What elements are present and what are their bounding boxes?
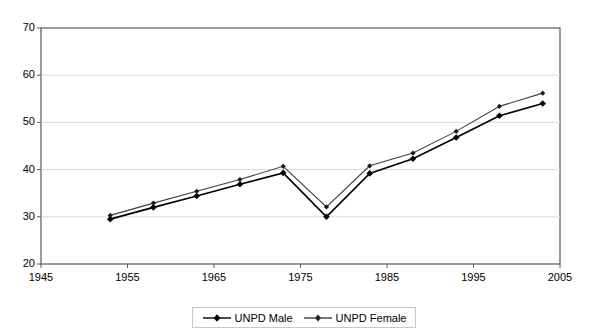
x-tick-label: 1975	[277, 271, 325, 283]
y-tick-label: 60	[6, 68, 35, 80]
plot-frame	[41, 28, 560, 264]
legend-marker-diamond-icon	[202, 312, 232, 324]
x-tick-marks	[41, 264, 560, 268]
legend-label-unpd-female: UNPD Female	[336, 312, 407, 324]
legend-label-unpd-male: UNPD Male	[235, 312, 293, 324]
x-tick-label: 1955	[104, 271, 152, 283]
line-chart: 203040506070 194519551965197519851995200…	[0, 0, 605, 332]
x-tick-label: 1995	[450, 271, 498, 283]
legend-item-unpd-female[interactable]: UNPD Female	[303, 312, 407, 324]
y-tick-label: 30	[6, 210, 35, 222]
x-tick-label: 1985	[363, 271, 411, 283]
legend-item-unpd-male[interactable]: UNPD Male	[202, 312, 293, 324]
legend-marker-diamond-icon	[303, 312, 333, 324]
y-tick-label: 50	[6, 115, 35, 127]
y-tick-label: 70	[6, 21, 35, 33]
x-tick-label: 1945	[17, 271, 65, 283]
chart-legend: UNPD Male UNPD Female	[192, 307, 416, 328]
y-tick-label: 40	[6, 163, 35, 175]
x-tick-label: 2005	[536, 271, 584, 283]
x-tick-label: 1965	[190, 271, 238, 283]
y-tick-label: 20	[6, 257, 35, 269]
